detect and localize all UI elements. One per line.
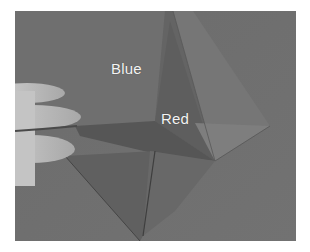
label-blue: Blue <box>111 60 142 77</box>
origami-photo: Blue Red <box>15 11 296 241</box>
origami-fold-shapes <box>15 11 296 241</box>
palm <box>15 91 35 186</box>
label-red: Red <box>161 110 189 127</box>
